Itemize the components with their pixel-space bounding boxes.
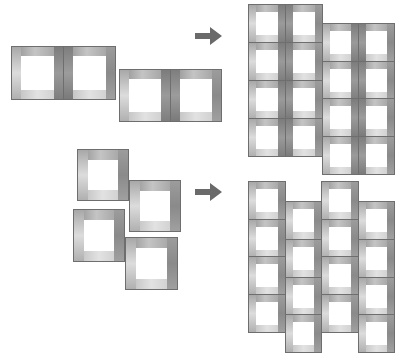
frame-left-bar [286,43,293,80]
frame-right-bar [387,62,394,99]
frame-right-bar [387,315,394,352]
frame-left-bar [322,182,329,219]
frame-right-bar [387,99,394,136]
output-tile [358,98,395,137]
output-tile [248,42,286,81]
frame-right-bar [351,99,358,136]
frame-right-bar [212,70,221,121]
output-tile [321,256,359,295]
frame-left-bar [249,295,256,332]
frame-right-bar [315,119,322,156]
frame-left-bar [323,137,330,174]
output-tile [358,314,395,353]
frame-right-bar [278,257,285,294]
frame-left-bar [249,220,256,257]
output-tile [285,4,323,43]
frame-left-bar [74,210,84,261]
frame-left-bar [359,315,366,352]
frame-right-bar [351,295,358,332]
output-tile [248,294,286,333]
frame-left-bar [359,24,366,61]
input-tile [125,237,178,290]
frame-right-bar [351,24,358,61]
output-tile [285,80,323,119]
frame-left-bar [249,119,256,156]
output-tile [248,219,286,258]
frame-right-bar [314,240,321,277]
output-tile [358,239,395,278]
frame-left-bar [130,181,140,231]
frame-right-bar [278,182,285,219]
frame-left-bar [286,202,293,239]
output-tile [322,23,359,62]
output-tile [248,118,286,157]
output-tile [322,136,359,175]
frame-right-bar [315,5,322,42]
frame-left-bar [286,278,293,315]
input-tile [77,149,129,201]
frame-left-bar [359,240,366,277]
frame-left-bar [359,62,366,99]
output-tile [248,4,286,43]
frame-left-bar [286,315,293,352]
output-tile [285,118,323,157]
frame-right-bar [170,181,180,231]
frame-right-bar [278,220,285,257]
frame-right-bar [161,70,170,121]
frame-right-bar [315,81,322,118]
frame-right-bar [278,295,285,332]
frame-left-bar [12,47,21,99]
output-tile [322,61,359,100]
output-tile [358,201,395,240]
input-tile [129,180,181,232]
frame-right-bar [278,5,285,42]
frame-left-bar [323,62,330,99]
frame-left-bar [359,202,366,239]
frame-left-bar [249,5,256,42]
frame-left-bar [359,99,366,136]
output-tile [248,80,286,119]
frame-left-bar [359,278,366,315]
frame-right-bar [54,47,63,99]
frame-right-bar [351,257,358,294]
frame-right-bar [278,43,285,80]
input-tile [119,69,171,122]
output-tile [321,294,359,333]
frame-left-bar [249,43,256,80]
output-tile [285,239,322,278]
frame-left-bar [249,81,256,118]
frame-right-bar [351,62,358,99]
frame-right-bar [314,278,321,315]
frame-right-bar [314,315,321,352]
frame-left-bar [78,150,88,200]
output-tile [248,181,286,220]
frame-left-bar [64,47,73,99]
output-tile [358,277,395,316]
diagram-canvas [0,0,403,361]
frame-right-bar [351,137,358,174]
frame-left-bar [126,238,136,289]
frame-right-bar [387,240,394,277]
frame-left-bar [171,70,180,121]
frame-right-bar [106,47,115,99]
frame-right-bar [387,202,394,239]
output-tile [285,42,323,81]
output-tile [321,181,359,220]
output-tile [285,277,322,316]
frame-right-bar [167,238,177,289]
frame-right-bar [278,119,285,156]
frame-left-bar [249,182,256,219]
input-tile [170,69,222,122]
output-tile [285,314,322,353]
frame-right-bar [387,137,394,174]
frame-left-bar [286,5,293,42]
output-tile [358,23,395,62]
output-tile [248,256,286,295]
frame-right-bar [351,182,358,219]
frame-right-bar [387,278,394,315]
frame-left-bar [286,119,293,156]
frame-right-bar [314,202,321,239]
input-tile [63,46,116,100]
frame-right-bar [114,210,124,261]
frame-right-bar [315,43,322,80]
